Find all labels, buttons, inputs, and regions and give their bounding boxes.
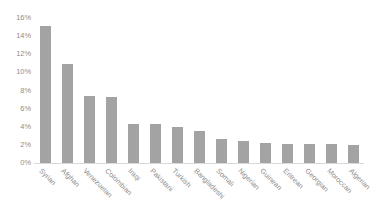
bar[interactable]	[40, 26, 51, 163]
bar[interactable]	[238, 141, 249, 163]
bar-slot	[78, 0, 100, 163]
x-tick-slot: Somali	[211, 165, 233, 216]
bar-slot	[34, 0, 56, 163]
bar[interactable]	[194, 131, 205, 163]
y-axis-tick-label: 8%	[0, 87, 31, 94]
bar[interactable]	[260, 143, 271, 163]
x-axis-tick-label: Syrian	[38, 167, 58, 187]
bar-slot	[254, 0, 276, 163]
bar[interactable]	[304, 144, 315, 163]
y-axis-tick-label: 12%	[0, 50, 31, 57]
x-tick-slot: Syrian	[34, 165, 56, 216]
bar-series	[34, 0, 364, 163]
y-axis-tick-label: 4%	[0, 123, 31, 130]
x-axis-tick-label: Algerian	[348, 167, 372, 191]
x-axis-tick-label: Iraqi	[127, 167, 142, 182]
x-tick-slot: Afghan	[56, 165, 78, 216]
bar[interactable]	[216, 139, 227, 163]
bar-slot	[100, 0, 122, 163]
bar-slot	[188, 0, 210, 163]
x-tick-slot: Guinean	[255, 165, 277, 216]
y-axis-tick-label: 10%	[0, 68, 31, 75]
x-tick-slot: Georgian	[300, 165, 322, 216]
bar[interactable]	[326, 144, 337, 163]
x-tick-slot: Eritrean	[278, 165, 300, 216]
x-tick-slot: Iraqi	[123, 165, 145, 216]
bar[interactable]	[282, 144, 293, 163]
bar[interactable]	[84, 96, 95, 163]
x-tick-slot: Bangladeshi	[189, 165, 211, 216]
bar-slot	[232, 0, 254, 163]
y-axis-tick-label: 2%	[0, 141, 31, 148]
bar[interactable]	[348, 145, 359, 163]
axis-baseline	[34, 163, 364, 164]
x-tick-slot: Pakistani	[145, 165, 167, 216]
x-tick-slot: Nigerian	[233, 165, 255, 216]
x-axis: SyrianAfghanVenezuelanColombianIraqiPaki…	[34, 165, 366, 216]
y-axis-tick-label: 14%	[0, 32, 31, 39]
bar-slot	[320, 0, 342, 163]
bar-slot	[342, 0, 364, 163]
y-axis-tick-label: 6%	[0, 105, 31, 112]
bar-slot	[210, 0, 232, 163]
bar-slot	[144, 0, 166, 163]
bar-slot	[298, 0, 320, 163]
bar[interactable]	[106, 97, 117, 163]
bar[interactable]	[172, 127, 183, 163]
x-tick-slot: Venezuelan	[78, 165, 100, 216]
x-tick-slot: Turkish	[167, 165, 189, 216]
y-axis-tick-label: 16%	[0, 14, 31, 21]
bar[interactable]	[150, 124, 161, 163]
bar-slot	[166, 0, 188, 163]
bar[interactable]	[128, 124, 139, 163]
x-tick-slot: Moroccan	[322, 165, 344, 216]
y-axis: 16%14%12%10%8%6%4%2%0%	[0, 0, 34, 216]
x-tick-slot: Algerian	[344, 165, 366, 216]
x-tick-slot: Colombian	[100, 165, 122, 216]
plot-area	[34, 0, 366, 164]
bar-slot	[56, 0, 78, 163]
y-axis-tick-label: 0%	[0, 159, 31, 166]
bar-slot	[276, 0, 298, 163]
bar-slot	[122, 0, 144, 163]
bar[interactable]	[62, 64, 73, 163]
